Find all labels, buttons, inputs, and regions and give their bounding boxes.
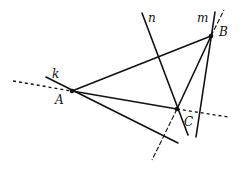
geometry-diagram: A B C k m n <box>0 0 242 169</box>
dashed-line-bc-bottom <box>152 109 177 160</box>
label-n: n <box>148 11 156 25</box>
label-a: A <box>54 93 64 107</box>
line-k <box>46 77 178 143</box>
point-b <box>209 34 214 39</box>
label-b: B <box>218 25 228 39</box>
label-c: C <box>184 115 193 129</box>
label-k: k <box>52 67 59 81</box>
segment-ab <box>72 36 211 91</box>
line-n <box>142 13 188 135</box>
segment-ac <box>72 91 177 109</box>
label-m: m <box>197 11 208 25</box>
point-a <box>70 89 75 94</box>
point-c <box>175 107 180 112</box>
line-m <box>196 12 215 137</box>
